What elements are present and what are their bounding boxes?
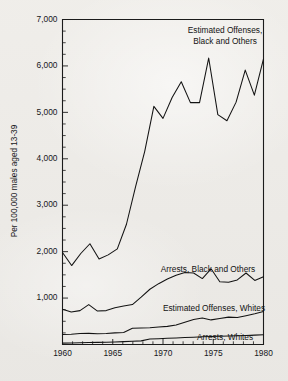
- y-axis: 1,0002,0003,0004,0005,0006,0007,000: [37, 14, 68, 345]
- series-annotation-label: Black and Others: [193, 36, 257, 46]
- x-tick-label: 1975: [204, 348, 223, 358]
- series-annotation-label: Arrests, Black and Others: [161, 264, 256, 274]
- x-tick-label: 1980: [254, 348, 273, 358]
- y-tick-label: 5,000: [37, 107, 58, 117]
- data-series-group: [63, 58, 264, 343]
- y-tick-label: 7,000: [37, 14, 58, 24]
- y-tick-label: 6,000: [37, 60, 58, 70]
- y-tick-label: 2,000: [37, 246, 58, 256]
- series-annotations: Estimated Offenses,Black and OthersArres…: [161, 25, 265, 342]
- series-annotation-label: Arrests, Whites: [197, 332, 253, 342]
- chart-figure: 1,0002,0003,0004,0005,0006,0007,000 1960…: [0, 0, 288, 381]
- y-tick-label: 3,000: [37, 199, 58, 209]
- line-chart-svg: 1,0002,0003,0004,0005,0006,0007,000 1960…: [0, 0, 288, 381]
- y-tick-label: 4,000: [37, 153, 58, 163]
- x-tick-label: 1970: [154, 348, 173, 358]
- x-tick-label: 1960: [53, 348, 72, 358]
- y-tick-label: 1,000: [37, 292, 58, 302]
- series-annotation-label: Estimated Offenses, Whites: [163, 303, 265, 313]
- x-tick-label: 1965: [103, 348, 122, 358]
- series-annotation-label: Estimated Offenses,: [188, 25, 263, 35]
- series-line: [63, 58, 264, 266]
- y-axis-title: Per 100,000 males aged 13-39: [10, 124, 19, 237]
- plot-frame: [63, 20, 264, 345]
